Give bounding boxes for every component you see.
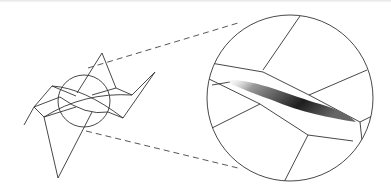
magnified-view (205, 15, 380, 190)
diagram (0, 0, 391, 195)
lower-connector (86, 131, 238, 168)
shaded-strip (222, 80, 356, 122)
folded-surface (24, 53, 155, 178)
